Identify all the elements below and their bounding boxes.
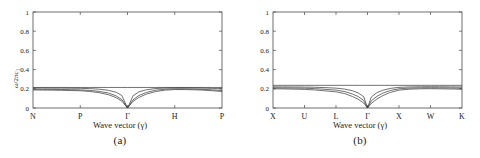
y-axis-label-a-sub: 1 <box>15 69 21 72</box>
caption-b: (b) <box>240 134 480 146</box>
plot-frame <box>33 12 222 108</box>
plot-frame <box>273 12 462 108</box>
y-tick-label: 0.8 <box>20 28 29 36</box>
y-tick-label: 0.4 <box>20 66 29 74</box>
y-tick-label: 1 <box>26 9 30 17</box>
figure-band-structures: 00.20.40.60.81NPΓHP ω/2πc1 Wave vector (… <box>0 0 480 158</box>
y-tick-label: 1 <box>266 9 270 17</box>
panel-b: 00.20.40.60.81XULΓXWK ω/2πc1 Wave vector… <box>240 0 480 158</box>
y-tick-label: 0.4 <box>260 66 269 74</box>
band-curve <box>273 88 462 108</box>
band-curve <box>33 88 222 108</box>
y-tick-label: 0.6 <box>260 47 269 55</box>
band-curve <box>273 87 462 108</box>
y-tick-label: 0 <box>26 105 30 113</box>
y-tick-label: 0.2 <box>20 85 29 93</box>
y-axis-label-a-main: ω/2πc <box>12 71 20 88</box>
y-tick-label: 0.2 <box>260 85 269 93</box>
y-axis-label-a: ω/2πc1 <box>12 69 20 88</box>
panel-a: 00.20.40.60.81NPΓHP ω/2πc1 Wave vector (… <box>0 0 240 158</box>
x-axis-title-b: Wave vector (γ) <box>240 120 480 130</box>
y-tick-label: 0.8 <box>260 28 269 36</box>
caption-a: (a) <box>0 134 240 146</box>
x-axis-title-a: Wave vector (γ) <box>0 120 240 130</box>
y-tick-label: 0 <box>266 105 270 113</box>
y-tick-label: 0.6 <box>20 47 29 55</box>
